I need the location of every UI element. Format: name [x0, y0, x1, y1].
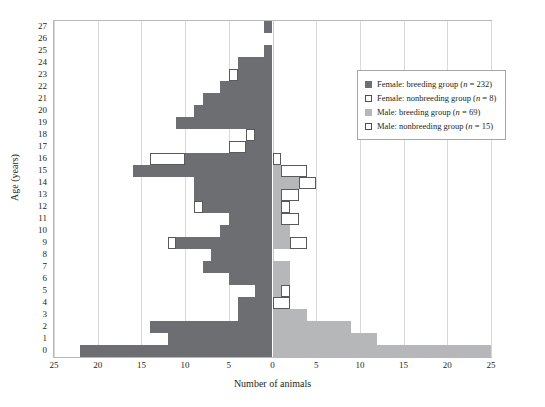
y-tick-label-7: 7: [43, 260, 48, 272]
segment-male-breeding: [273, 213, 282, 225]
y-tick-label-21: 21: [38, 92, 47, 104]
y-tick-label-18: 18: [38, 128, 47, 140]
y-tick-label-4: 4: [43, 296, 48, 308]
x-axis-title: Number of animals: [53, 378, 492, 389]
legend-item-label: Female: nonbreeding group (n = 8): [377, 93, 496, 103]
segment-male-nonbreeding: [273, 153, 282, 165]
legend-swatch-icon: [365, 109, 372, 116]
bar-row-age-5: [54, 285, 491, 297]
segment-female-breeding: [194, 105, 273, 117]
segment-female-nonbreeding: [246, 129, 255, 141]
segment-male-nonbreeding: [281, 213, 298, 225]
bar-row-age-12: [54, 201, 491, 213]
segment-male-breeding: [273, 177, 299, 189]
chart-legend: Female: breeding group (n = 232)Female: …: [357, 70, 506, 140]
legend-swatch-icon: [365, 81, 372, 88]
y-tick-label-13: 13: [38, 188, 47, 200]
segment-male-nonbreeding: [290, 237, 307, 249]
y-tick-label-1: 1: [43, 332, 48, 344]
y-tick-label-3: 3: [43, 308, 48, 320]
legend-swatch-icon: [365, 123, 372, 130]
y-tick-label-9: 9: [43, 236, 48, 248]
segment-male-nonbreeding: [281, 165, 307, 177]
y-tick-label-20: 20: [38, 104, 47, 116]
y-tick-label-0: 0: [43, 344, 48, 356]
segment-male-breeding: [273, 237, 290, 249]
population-pyramid-chart: 2726252423222120191817161514131211109876…: [0, 0, 545, 407]
x-tick-label: 10: [181, 360, 190, 370]
y-tick-label-23: 23: [38, 68, 47, 80]
bar-row-age-11: [54, 213, 491, 225]
y-tick-label-11: 11: [38, 212, 47, 224]
y-tick-label-22: 22: [38, 80, 47, 92]
segment-male-breeding: [273, 261, 290, 273]
segment-female-breeding: [255, 285, 272, 297]
segment-female-nonbreeding: [168, 237, 177, 249]
segment-female-breeding: [168, 333, 273, 345]
bar-row-age-3: [54, 309, 491, 321]
segment-female-breeding: [203, 261, 273, 273]
bar-row-age-13: [54, 189, 491, 201]
segment-female-breeding: [255, 129, 272, 141]
bar-row-age-8: [54, 249, 491, 261]
y-tick-label-2: 2: [43, 320, 48, 332]
y-tick-label-8: 8: [43, 248, 48, 260]
segment-female-breeding: [264, 45, 273, 57]
bar-row-age-17: [54, 141, 491, 153]
legend-item-label: Female: breeding group (n = 232): [377, 79, 492, 89]
segment-female-breeding: [203, 201, 273, 213]
bar-row-age-2: [54, 321, 491, 333]
bar-row-age-0: [54, 345, 491, 357]
x-tick-label: 25: [50, 360, 59, 370]
segment-female-breeding: [238, 309, 273, 321]
y-tick-label-27: 27: [38, 20, 47, 32]
bar-row-age-7: [54, 261, 491, 273]
segment-male-breeding: [273, 333, 378, 345]
x-tick-label: 20: [93, 360, 102, 370]
y-tick-label-14: 14: [38, 176, 47, 188]
segment-male-breeding: [273, 285, 282, 297]
y-tick-label-26: 26: [38, 32, 47, 44]
segment-female-breeding: [220, 81, 272, 93]
segment-female-breeding: [176, 237, 272, 249]
bar-row-age-1: [54, 333, 491, 345]
y-tick-label-6: 6: [43, 272, 48, 284]
legend-item-male-nonbreed: Male: nonbreeding group (n = 15): [365, 119, 496, 133]
segment-male-breeding: [273, 189, 282, 201]
legend-item-label: Male: breeding group (n = 69): [377, 107, 480, 117]
segment-male-breeding: [273, 321, 352, 333]
bar-row-age-14: [54, 177, 491, 189]
segment-male-nonbreeding: [281, 285, 290, 297]
segment-female-breeding: [246, 141, 272, 153]
y-tick-label-12: 12: [38, 200, 47, 212]
legend-item-fem-nonbreed: Female: nonbreeding group (n = 8): [365, 91, 496, 105]
segment-female-breeding: [80, 345, 272, 357]
segment-male-nonbreeding: [281, 189, 298, 201]
bar-row-age-15: [54, 165, 491, 177]
legend-item-fem-breed: Female: breeding group (n = 232): [365, 77, 496, 91]
segment-male-nonbreeding: [281, 201, 290, 213]
segment-female-breeding: [203, 93, 273, 105]
segment-male-breeding: [273, 225, 290, 237]
y-tick-label-10: 10: [38, 224, 47, 236]
x-tick-label: 20: [443, 360, 452, 370]
x-tick-label: 10: [355, 360, 364, 370]
segment-female-nonbreeding: [229, 69, 238, 81]
bar-row-age-24: [54, 57, 491, 69]
segment-male-breeding: [273, 273, 290, 285]
segment-female-breeding: [229, 273, 273, 285]
x-tick-label: 15: [399, 360, 408, 370]
bar-row-age-26: [54, 33, 491, 45]
y-tick-label-5: 5: [43, 284, 48, 296]
y-tick-label-25: 25: [38, 44, 47, 56]
y-tick-label-24: 24: [38, 56, 47, 68]
segment-male-breeding: [273, 201, 282, 213]
legend-item-label: Male: nonbreeding group (n = 15): [377, 121, 493, 131]
y-tick-label-17: 17: [38, 140, 47, 152]
segment-female-breeding: [264, 21, 273, 33]
bar-row-age-10: [54, 225, 491, 237]
x-axis-tick-labels: 2520151050510152025: [53, 360, 492, 376]
y-tick-label-19: 19: [38, 116, 47, 128]
segment-male-breeding: [273, 309, 308, 321]
segment-female-breeding: [238, 57, 273, 69]
